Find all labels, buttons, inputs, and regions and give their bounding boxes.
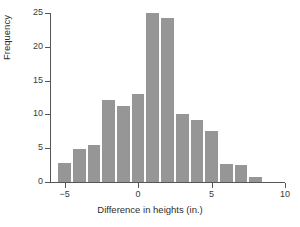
- histogram-bar: [160, 18, 175, 182]
- y-axis-tick-label: 15: [0, 76, 43, 85]
- x-axis-tick: [138, 183, 139, 188]
- y-axis-tick-label: 5: [0, 143, 43, 152]
- histogram-bar: [116, 106, 131, 182]
- histogram-bar: [175, 114, 190, 182]
- histogram-bar: [190, 120, 205, 182]
- y-axis-tick: [45, 114, 50, 115]
- x-axis-tick-label: 0: [118, 190, 158, 199]
- y-axis-tick: [45, 81, 50, 82]
- x-axis-tick-label: 5: [192, 190, 232, 199]
- histogram-bar: [234, 165, 249, 182]
- bars-layer: [50, 13, 285, 182]
- x-axis-tick: [285, 183, 286, 188]
- histogram-figure: 0510152025 −50510 Frequency Difference i…: [0, 0, 300, 227]
- x-axis-tick: [212, 183, 213, 188]
- y-axis-tick: [45, 47, 50, 48]
- y-axis-line: [50, 13, 51, 182]
- y-axis-tick: [45, 182, 50, 183]
- y-axis-title: Frequency: [2, 15, 12, 60]
- histogram-bar: [131, 94, 146, 182]
- histogram-bar: [219, 164, 234, 182]
- plot-area: [50, 13, 285, 182]
- x-axis-tick: [65, 183, 66, 188]
- histogram-bar: [204, 131, 219, 182]
- y-axis-tick-label: 0: [0, 177, 43, 186]
- x-axis-title: Difference in heights (in.): [0, 205, 300, 215]
- x-axis-tick-label: −5: [45, 190, 85, 199]
- y-axis-tick: [45, 13, 50, 14]
- histogram-bar: [72, 149, 87, 182]
- histogram-bar: [57, 163, 72, 182]
- y-axis-tick: [45, 148, 50, 149]
- x-axis-tick-label: 10: [265, 190, 300, 199]
- x-axis-line: [50, 182, 285, 183]
- histogram-bar: [87, 145, 102, 182]
- y-axis-tick-label: 10: [0, 109, 43, 118]
- histogram-bar: [145, 13, 160, 182]
- histogram-bar: [101, 100, 116, 182]
